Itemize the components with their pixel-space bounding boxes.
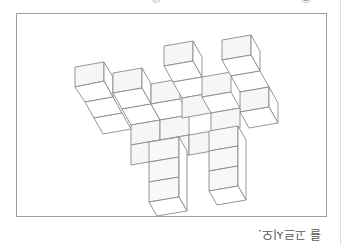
question-text: 를 고르시오. (258, 228, 321, 240)
worksheet-page: ④ ⑤ (0, 0, 346, 245)
cube-structure-figure (1, 1, 346, 245)
figure-frame (16, 13, 327, 217)
